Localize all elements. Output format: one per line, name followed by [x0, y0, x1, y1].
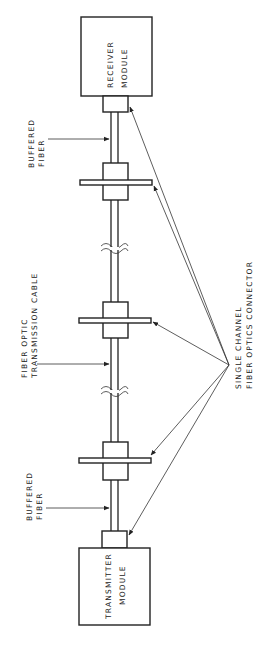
- buffered-fiber-top-line2: FIBER: [37, 139, 46, 167]
- receiver-module: RECEIVER MODULE: [81, 17, 152, 96]
- connector-middle: [79, 302, 151, 338]
- cable-break-icon: [101, 244, 128, 254]
- transmitter-port: [102, 531, 127, 548]
- buffered-fiber-top-line1: BUFFERED: [27, 119, 36, 168]
- cable-label-line1: FIBER OPTIC: [20, 318, 29, 378]
- receiver-port: [103, 96, 128, 112]
- transmitter-module: TRANSMITTER MODULE: [79, 548, 150, 625]
- connector-bottom: [79, 442, 151, 480]
- buffered-fiber-bottom-line1: BUFFERED: [25, 472, 34, 521]
- connector-top: [80, 163, 152, 200]
- transmitter-label-line1: TRANSMITTER: [104, 553, 113, 620]
- buffered-fiber-bottom-line2: FIBER: [35, 492, 44, 520]
- connector-label-line1: SINGLE CHANNEL: [234, 306, 243, 389]
- receiver-label-line2: MODULE: [120, 48, 129, 88]
- transmitter-label-line2: MODULE: [118, 565, 127, 605]
- cable-break-icon: [101, 387, 128, 397]
- connector-label-line2: FIBER OPTICS CONNECTOR: [245, 261, 254, 389]
- fiber-link-diagram: RECEIVER MODULE: [0, 0, 264, 649]
- receiver-label-line1: RECEIVER: [106, 41, 115, 88]
- cable-label-line2: TRANSMISSION CABLE: [30, 273, 39, 379]
